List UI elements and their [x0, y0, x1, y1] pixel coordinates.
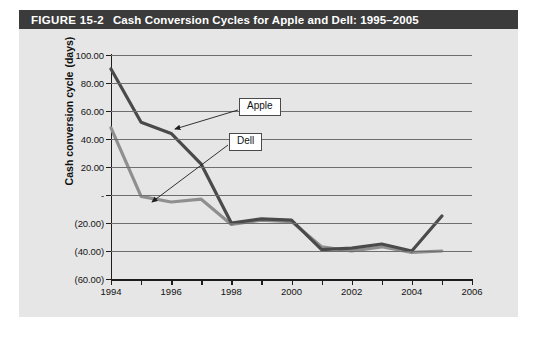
gridline	[111, 167, 472, 168]
x-tick-label: 1998	[221, 286, 242, 297]
x-tick	[382, 280, 383, 285]
gridline	[111, 55, 472, 56]
gridline	[111, 223, 472, 224]
x-tick	[171, 280, 172, 285]
dell-callout: Dell	[229, 133, 262, 151]
x-tick	[442, 280, 443, 285]
y-axis-title-units: (days)	[63, 37, 75, 68]
series-line-dell	[111, 128, 442, 253]
x-tick-label: 1994	[100, 286, 121, 297]
apple-callout: Apple	[239, 98, 281, 116]
y-tick-label: (60.00)	[48, 274, 104, 285]
x-tick	[412, 280, 413, 285]
x-tick	[111, 280, 112, 285]
x-tick	[141, 280, 142, 285]
x-tick	[352, 280, 353, 285]
gridline	[111, 251, 472, 252]
plot-area	[111, 55, 472, 279]
gridline	[111, 139, 472, 140]
x-tick	[292, 280, 293, 285]
y-axis-title: (days) Cash conversion cycle	[54, 36, 84, 186]
y-tick-label: (20.00)	[48, 218, 104, 229]
x-tick-label: 2006	[461, 286, 482, 297]
x-axis-line	[111, 279, 473, 281]
x-tick-label: 2002	[341, 286, 362, 297]
x-tick	[472, 280, 473, 285]
y-tick-label: -	[48, 190, 104, 201]
x-tick	[261, 280, 262, 285]
figure-container: FIGURE 15-2 Cash Conversion Cycles for A…	[0, 0, 537, 340]
x-tick	[201, 280, 202, 285]
y-axis-title-text: Cash conversion cycle	[63, 72, 75, 186]
x-tick-label: 1996	[161, 286, 182, 297]
x-tick-label: 2004	[401, 286, 422, 297]
x-tick	[322, 280, 323, 285]
x-tick	[231, 280, 232, 285]
gridline	[111, 195, 472, 196]
y-tick-label: (40.00)	[48, 246, 104, 257]
x-tick-label: 2000	[281, 286, 302, 297]
gridline	[111, 83, 472, 84]
gridline	[111, 111, 472, 112]
figure-title: Cash Conversion Cycles for Apple and Del…	[113, 14, 419, 26]
